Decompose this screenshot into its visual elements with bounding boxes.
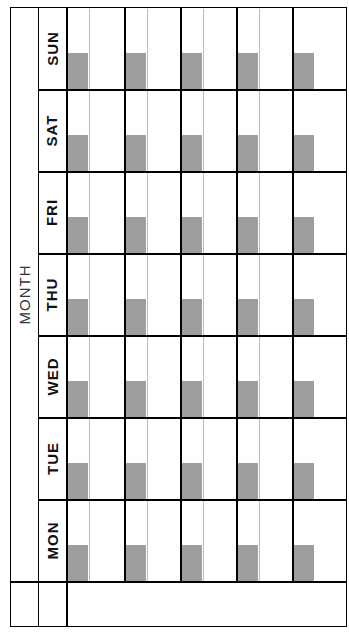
- cell-divider: [147, 501, 148, 581]
- date-box: [294, 381, 314, 417]
- cell-divider: [259, 501, 260, 581]
- cell-divider: [89, 337, 90, 417]
- month-label: MONTH: [10, 7, 38, 581]
- date-box: [238, 545, 258, 581]
- date-box: [126, 217, 146, 253]
- cell-divider: [89, 173, 90, 253]
- cell-divider: [203, 173, 204, 253]
- cell-divider: [89, 419, 90, 499]
- date-box: [182, 299, 202, 335]
- date-box: [68, 53, 88, 89]
- date-box: [182, 135, 202, 171]
- cell-divider: [259, 255, 260, 335]
- cell-divider: [203, 337, 204, 417]
- date-box: [294, 135, 314, 171]
- day-label-text: FRI: [43, 198, 60, 225]
- cell-divider: [147, 173, 148, 253]
- date-box: [68, 545, 88, 581]
- date-box: [68, 135, 88, 171]
- cell-divider: [259, 173, 260, 253]
- cell-divider: [147, 337, 148, 417]
- date-box: [126, 53, 146, 89]
- date-box: [126, 545, 146, 581]
- day-label-mon: MON: [38, 499, 66, 581]
- cell-divider: [203, 419, 204, 499]
- date-box: [238, 463, 258, 499]
- cell-divider: [203, 9, 204, 89]
- cell-divider: [147, 91, 148, 171]
- cell-divider: [147, 255, 148, 335]
- date-box: [68, 381, 88, 417]
- day-label-text: TUE: [44, 442, 61, 475]
- day-label-thu: THU: [38, 253, 66, 335]
- cell-divider: [89, 255, 90, 335]
- border-right: [346, 7, 347, 627]
- day-label-text: MON: [44, 521, 61, 559]
- cell-divider: [89, 91, 90, 171]
- cell-divider: [203, 255, 204, 335]
- border-bottom: [10, 626, 347, 627]
- day-label-text: THU: [44, 277, 61, 311]
- date-box: [182, 463, 202, 499]
- cell-divider: [203, 91, 204, 171]
- date-box: [294, 545, 314, 581]
- day-label-sat: SAT: [38, 89, 66, 171]
- cell-divider: [89, 9, 90, 89]
- date-box: [182, 545, 202, 581]
- cell-divider: [147, 419, 148, 499]
- date-box: [126, 135, 146, 171]
- date-box: [238, 381, 258, 417]
- cell-divider: [259, 91, 260, 171]
- date-box: [182, 53, 202, 89]
- date-box: [126, 299, 146, 335]
- date-box: [238, 53, 258, 89]
- day-label-tue: TUE: [38, 417, 66, 499]
- date-box: [182, 217, 202, 253]
- day-label-text: SUN: [44, 31, 61, 66]
- date-box: [238, 135, 258, 171]
- date-box: [294, 299, 314, 335]
- row-line: [10, 581, 346, 583]
- day-label-sun: SUN: [38, 7, 66, 89]
- date-box: [238, 299, 258, 335]
- date-box: [182, 381, 202, 417]
- date-box: [238, 217, 258, 253]
- cell-divider: [89, 501, 90, 581]
- cell-divider: [259, 419, 260, 499]
- date-box: [68, 217, 88, 253]
- date-box: [126, 381, 146, 417]
- date-box: [294, 53, 314, 89]
- date-box: [126, 463, 146, 499]
- cell-divider: [259, 337, 260, 417]
- day-label-text: WED: [44, 357, 61, 395]
- cell-divider: [147, 9, 148, 89]
- cell-divider: [259, 9, 260, 89]
- date-box: [68, 299, 88, 335]
- month-text: MONTH: [16, 264, 33, 324]
- cell-divider: [203, 501, 204, 581]
- day-label-wed: WED: [38, 335, 66, 417]
- date-box: [294, 463, 314, 499]
- day-label-text: SAT: [44, 114, 61, 146]
- date-box: [68, 463, 88, 499]
- day-label-fri: FRI: [38, 171, 66, 253]
- date-box: [294, 217, 314, 253]
